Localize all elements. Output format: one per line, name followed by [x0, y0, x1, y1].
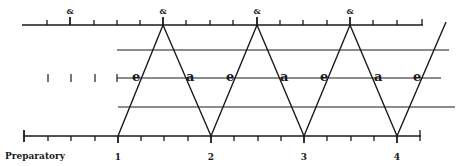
beat-label-3: 3	[301, 152, 307, 162]
and-label-3: &	[253, 6, 261, 16]
beat-pattern-diagram: & & & & e a e a e a e	[0, 0, 458, 166]
beat-label-4: 4	[394, 152, 400, 162]
top-ruler	[22, 17, 423, 25]
a-label-3: a	[374, 69, 383, 84]
preparatory-label: Preparatory	[5, 151, 66, 161]
and-label-2: &	[159, 6, 167, 16]
a-label-2: a	[280, 69, 289, 84]
beat-labels: Preparatory 1 2 3 4	[5, 151, 400, 162]
preparatory-short-ticks	[48, 74, 117, 82]
e-label-1: e	[132, 69, 140, 84]
amp-labels: & & & &	[66, 6, 354, 16]
and-label-1: &	[66, 6, 74, 16]
e-label-3: e	[320, 69, 328, 84]
beat-label-1: 1	[115, 152, 121, 162]
and-label-4: &	[346, 6, 354, 16]
beat-label-2: 2	[208, 152, 214, 162]
e-label-4: e	[413, 69, 421, 84]
a-label-1: a	[186, 69, 195, 84]
e-label-2: e	[226, 69, 234, 84]
bottom-ruler	[23, 130, 421, 143]
